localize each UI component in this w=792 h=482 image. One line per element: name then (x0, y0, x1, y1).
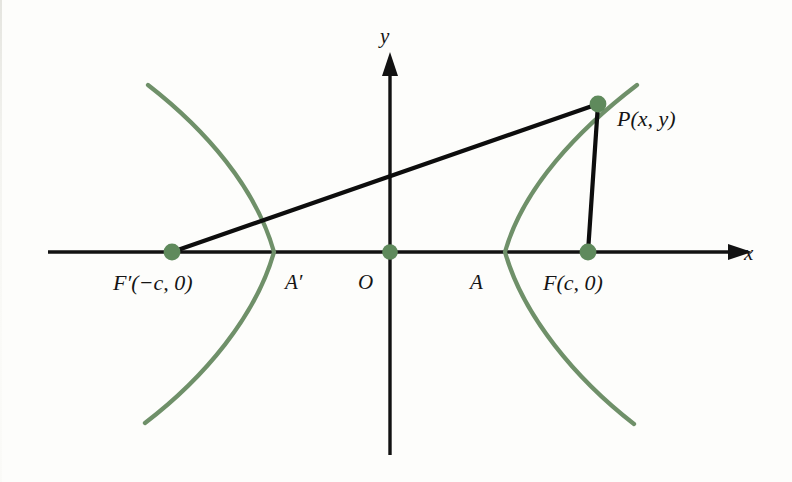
x-axis-label: x (744, 243, 753, 264)
figure-canvas (0, 0, 792, 482)
point-p-dot (590, 96, 607, 113)
vertex-left-label: A′ (285, 272, 302, 293)
vertex-right-label: A (470, 272, 483, 293)
focus-right-label: F(c, 0) (543, 272, 603, 294)
focus-right-dot (580, 244, 597, 261)
hyperbola-figure: x y O F′(−c, 0) F(c, 0) A′ A P(x, y) (0, 0, 792, 482)
origin-label: O (358, 272, 373, 293)
y-axis-arrowhead-icon (382, 52, 398, 76)
focus-left-dot (164, 244, 181, 261)
hyperbola-right-branch (505, 85, 637, 424)
x-axis (48, 244, 752, 260)
y-axis-label: y (380, 26, 389, 47)
focus-left-label: F′(−c, 0) (113, 272, 193, 294)
point-p-label: P(x, y) (617, 108, 676, 130)
origin-dot (382, 244, 398, 260)
